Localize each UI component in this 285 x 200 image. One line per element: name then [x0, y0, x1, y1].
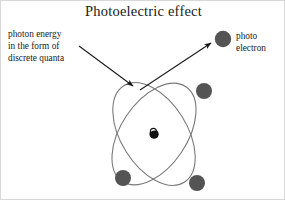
photo-electron-icon	[215, 31, 231, 47]
orbital-electron-upper-right	[196, 83, 212, 99]
photon-energy-annotation: photon energy in the form of discrete qu…	[8, 28, 64, 65]
photon-annotation-line-1: photon energy	[8, 28, 64, 40]
incoming-photon-arrow	[79, 46, 133, 86]
photoelectron-annotation-line-2: electron	[236, 42, 266, 54]
orbital-electron-lower-left	[115, 170, 131, 186]
nucleus-core-icon	[150, 131, 158, 139]
photoelectron-annotation-line-1: photo	[236, 30, 266, 42]
orbital-electron-lower-right	[189, 175, 205, 191]
photoelectric-effect-figure: Photoelectric effect photon energy in th…	[0, 0, 285, 200]
photo-electron-annotation: photo electron	[236, 30, 266, 54]
photon-annotation-line-3: discrete quanta	[8, 52, 64, 64]
photon-annotation-line-2: in the form of	[8, 40, 64, 52]
